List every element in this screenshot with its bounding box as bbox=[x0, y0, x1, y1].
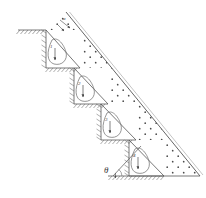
slope-face-line bbox=[66, 12, 203, 176]
wall-label-2: 2 bbox=[78, 81, 81, 86]
wall-block-1: 1 bbox=[42, 30, 81, 72]
diagram-svg: 1 2 bbox=[0, 0, 206, 198]
theta-angle-annotation: θ bbox=[104, 146, 141, 178]
wall-block-4: 4 bbox=[125, 140, 165, 176]
hatch-back-2 bbox=[70, 68, 75, 104]
soil-backfill-wedge bbox=[46, 12, 200, 176]
theta-arc bbox=[119, 169, 122, 176]
hatch-back-1 bbox=[42, 30, 47, 68]
hatch-base-2 bbox=[74, 104, 106, 108]
hatch-back-4 bbox=[125, 140, 130, 176]
top-dimension-label: α bbox=[63, 16, 66, 21]
theta-label: θ bbox=[104, 165, 109, 175]
hatch-back-3 bbox=[97, 104, 102, 140]
wall-block-2: 2 bbox=[70, 68, 109, 108]
figure-canvas: 1 2 bbox=[0, 0, 206, 198]
ground-surface-left bbox=[17, 30, 47, 34]
wall-block-3: 3 bbox=[97, 104, 137, 144]
baseline-bottom bbox=[108, 176, 200, 180]
wall-label-3: 3 bbox=[105, 117, 108, 122]
wall-label-1: 1 bbox=[50, 44, 53, 49]
hatch-baseline bbox=[109, 176, 165, 180]
